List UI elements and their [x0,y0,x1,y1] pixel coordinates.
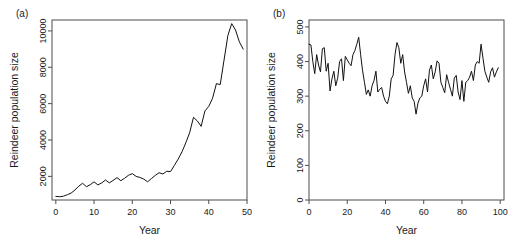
panel-b-plot: 0204060801000100200300400500YearReindeer… [257,0,514,247]
panel-a: (a) 01020304050200040006000800010000Year… [0,0,257,247]
data-series-line [56,24,243,197]
data-series-line [309,37,498,114]
panel-a-plot: 01020304050200040006000800010000YearRein… [0,0,257,247]
x-axis-tick-label: 80 [457,207,467,217]
x-axis-title: Year [396,224,418,236]
y-axis-tick-label: 6000 [38,94,48,114]
x-axis-tick-label: 50 [242,207,252,217]
y-axis-tick-label: 500 [295,19,305,34]
x-axis-title: Year [139,224,161,236]
figure-container: (a) 01020304050200040006000800010000Year… [0,0,514,247]
x-axis-tick-label: 60 [419,207,429,217]
x-axis-tick-label: 0 [53,207,58,217]
y-axis-tick-label: 200 [295,123,305,138]
x-axis-tick-label: 100 [493,207,508,217]
x-axis-tick-label: 40 [204,207,214,217]
plot-frame [309,20,504,200]
y-axis-title: Reindeer population size [265,52,277,168]
y-axis-tick-label: 300 [295,89,305,104]
x-axis-tick-label: 10 [89,207,99,217]
y-axis-tick-label: 0 [295,197,305,202]
x-axis-tick-label: 30 [166,207,176,217]
x-axis-tick-label: 40 [380,207,390,217]
y-axis-tick-label: 10000 [38,18,48,43]
y-axis-tick-label: 8000 [38,57,48,77]
y-axis-tick-label: 4000 [38,130,48,150]
plot-frame [52,20,247,200]
x-axis-tick-label: 20 [342,207,352,217]
x-axis-tick-label: 20 [127,207,137,217]
panel-b: (b) 0204060801000100200300400500YearRein… [257,0,514,247]
x-axis-tick-label: 0 [306,207,311,217]
y-axis-tick-label: 100 [295,158,305,173]
y-axis-title: Reindeer population size [8,52,20,168]
y-axis-tick-label: 2000 [38,166,48,186]
y-axis-tick-label: 400 [295,54,305,69]
